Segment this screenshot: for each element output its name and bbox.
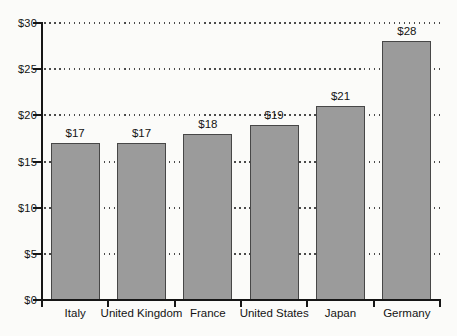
x-axis-category-label: United States (240, 307, 309, 320)
x-axis-category-label: Italy (65, 307, 86, 320)
bar-value-label: $18 (198, 118, 217, 131)
y-axis-tick-label: $30 (0, 17, 37, 29)
gridline-5 (44, 253, 440, 255)
y-axis-tick-label: $15 (0, 156, 37, 168)
gridline-20 (44, 114, 440, 116)
x-axis-tick (41, 301, 43, 307)
bar-japan (316, 106, 365, 300)
x-axis-category-label: United Kingdom (101, 307, 183, 320)
bar-united-kingdom (117, 143, 166, 300)
bar-germany (382, 41, 431, 300)
bar-italy (51, 143, 100, 300)
y-axis-tick-label: $25 (0, 63, 37, 75)
bar-chart: $17$17$18$19$21$28 $0$5$10$15$20$25$30 I… (0, 0, 457, 336)
y-axis-tick-label: $20 (0, 109, 37, 121)
y-axis-tick-label: $0 (0, 294, 37, 306)
bar-united-states (250, 125, 299, 300)
gridline-10 (44, 207, 440, 209)
y-axis-line (41, 22, 43, 301)
x-axis-tick (439, 301, 441, 307)
gridline-30 (44, 22, 440, 24)
bar-value-label: $17 (66, 127, 85, 140)
x-axis-tick (373, 301, 375, 307)
bar-value-label: $19 (265, 109, 284, 122)
x-axis-category-label: Japan (325, 307, 356, 320)
gridline-15 (44, 161, 440, 163)
bar-value-label: $28 (397, 25, 416, 38)
gridline-25 (44, 68, 440, 70)
x-axis-category-label: Germany (383, 307, 430, 320)
bar-france (183, 134, 232, 300)
bar-value-label: $17 (132, 127, 151, 140)
y-axis-tick-label: $10 (0, 202, 37, 214)
x-axis-category-label: France (190, 307, 226, 320)
bar-value-label: $21 (331, 90, 350, 103)
y-axis-tick-label: $5 (0, 248, 37, 260)
